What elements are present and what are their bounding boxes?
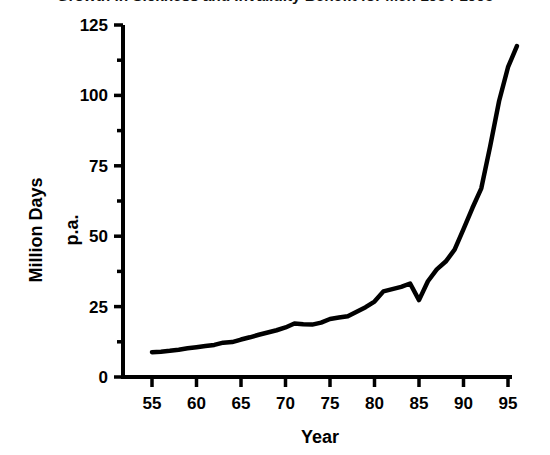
x-tick-label: 90 xyxy=(454,394,473,413)
y-axis-label-line2: p.a. xyxy=(62,214,82,245)
x-tick-label: 80 xyxy=(365,394,384,413)
y-tick-label: 50 xyxy=(89,227,108,246)
x-tick-label: 70 xyxy=(276,394,295,413)
y-tick-label: 75 xyxy=(89,157,108,176)
x-tick-label: 95 xyxy=(499,394,518,413)
y-tick-label: 25 xyxy=(89,298,108,317)
y-tick-label: 0 xyxy=(99,368,108,387)
x-axis-label: Year xyxy=(301,427,339,447)
x-tick-label: 85 xyxy=(410,394,429,413)
chart-figure: Growth in Sickness and Invalidity Benefi… xyxy=(0,0,550,455)
x-tick-label: 55 xyxy=(143,394,162,413)
line-chart-plot: 0255075100125 556065707580859095 Million… xyxy=(0,0,550,455)
data-series-line xyxy=(152,46,517,352)
y-axis-label-line1: Million Days xyxy=(26,177,46,282)
x-axis-tick-labels: 556065707580859095 xyxy=(143,394,518,413)
x-tick-label: 60 xyxy=(187,394,206,413)
y-axis-tick-labels: 0255075100125 xyxy=(80,16,108,387)
y-tick-label: 125 xyxy=(80,16,108,35)
y-tick-label: 100 xyxy=(80,86,108,105)
x-tick-label: 75 xyxy=(321,394,340,413)
x-tick-label: 65 xyxy=(232,394,251,413)
